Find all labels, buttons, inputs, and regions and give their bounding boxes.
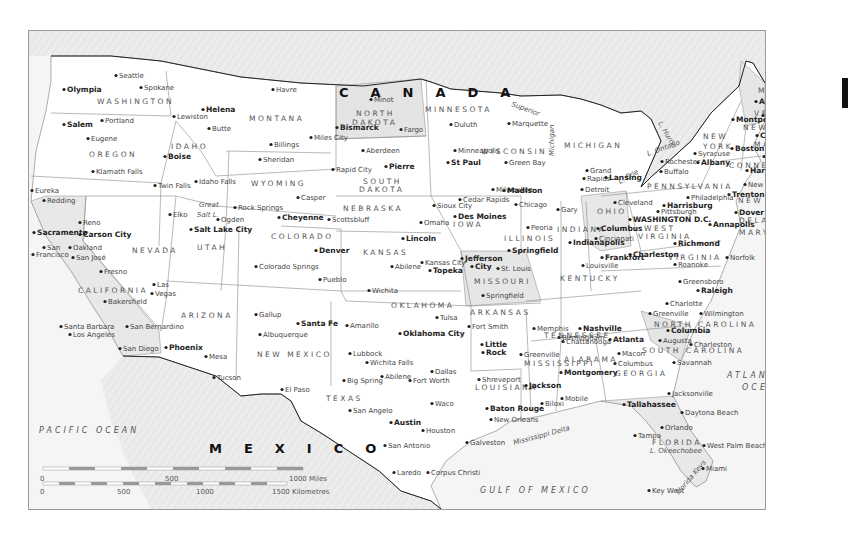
state-label: MARYLAND (739, 228, 765, 237)
city-label: Casper (301, 194, 326, 202)
capital-label: Des Moines (458, 212, 507, 221)
capital-dot-icon (622, 403, 625, 406)
city-label: Springfield (486, 292, 524, 300)
city-dot-icon (496, 267, 499, 270)
city-dot-icon (699, 312, 702, 315)
city-dot-icon (369, 98, 372, 101)
city-dot-icon (68, 333, 71, 336)
city-label: Klamath Falls (96, 168, 143, 176)
capital-label: Nashville (583, 324, 622, 333)
city-label: Gary (561, 206, 578, 214)
capital-label: Atlanta (613, 335, 644, 344)
capital-label: Rock (486, 348, 507, 357)
city-dot-icon (342, 379, 345, 382)
city-dot-icon (150, 292, 153, 295)
city-dot-icon (204, 355, 207, 358)
capital-dot-icon (384, 165, 387, 168)
city-label: Omaha (424, 219, 449, 227)
city-label: Rock Springs (238, 204, 284, 212)
city-dot-icon (532, 327, 535, 330)
city-dot-icon (271, 88, 274, 91)
city-dot-icon (296, 196, 299, 199)
state-label: MINNESOTA (425, 105, 492, 114)
capital-dot-icon (62, 88, 65, 91)
city-label: Tampa (637, 432, 661, 440)
city-label: Green Bay (509, 159, 546, 167)
capital-dot-icon (755, 134, 758, 137)
city-label: Fort Smith (472, 323, 508, 331)
city-dot-icon (216, 218, 219, 221)
capital-dot-icon (189, 228, 192, 231)
city-dot-icon (71, 256, 74, 259)
capital-dot-icon (559, 371, 562, 374)
capital-label: Columbia (671, 326, 710, 335)
city-label: Rapids (587, 175, 611, 183)
city-dot-icon (309, 136, 312, 139)
city-label: New Orleans (494, 416, 539, 424)
capital-label: Trenton (732, 190, 765, 199)
city-label: Fargo (404, 126, 423, 134)
capital-dot-icon (628, 253, 631, 256)
city-label: Minneapolis (458, 147, 500, 155)
city-label: Key West (652, 487, 684, 495)
capital-dot-icon (401, 237, 404, 240)
city-dot-icon (59, 325, 62, 328)
city-label: Duluth (454, 121, 477, 129)
capital-dot-icon (596, 227, 599, 230)
city-label: Waco (435, 400, 454, 408)
state-label: KENTUCKY (560, 274, 620, 283)
city-label: Wichita (372, 287, 398, 295)
city-label: Houston (426, 427, 455, 435)
city-label: Aberdeen (366, 147, 400, 155)
city-label: Elko (173, 211, 187, 219)
water-label: GULF OF MEXICO (480, 486, 591, 495)
city-dot-icon (660, 426, 663, 429)
city-dot-icon (556, 208, 559, 211)
state-label: NEBRASKA (343, 204, 403, 213)
city-dot-icon (430, 370, 433, 373)
city-label: Gallup (259, 311, 282, 319)
capital-label: Boston (735, 144, 764, 153)
city-dot-icon (212, 376, 215, 379)
map-frame: CANADAMEXICOPACIFIC OCEANATLANTICOCEANGU… (28, 30, 766, 510)
city-label: San Antonio (388, 442, 430, 450)
state-label: UTAH (197, 243, 227, 252)
city-dot-icon (233, 206, 236, 209)
city-dot-icon (103, 300, 106, 303)
city-label: Seattle (119, 72, 144, 80)
capital-dot-icon (485, 407, 488, 410)
city-dot-icon (68, 246, 71, 249)
city-dot-icon (348, 352, 351, 355)
capital-label: Springfield (512, 246, 558, 255)
city-label: Corpus Christi (431, 469, 480, 477)
city-dot-icon (100, 119, 103, 122)
city-label: Colorado Springs (259, 263, 319, 271)
city-label: Billings (274, 141, 299, 149)
capital-label: Raleigh (701, 286, 733, 295)
capital-dot-icon (745, 169, 748, 172)
city-label: Abilene (385, 373, 411, 381)
city-dot-icon (367, 289, 370, 292)
capital-label: Carson City (83, 230, 131, 239)
city-dot-icon (633, 434, 636, 437)
state-label: COLORADO (271, 232, 334, 241)
city-label: El Paso (285, 386, 310, 394)
water-label: PACIFIC OCEAN (39, 426, 139, 435)
city-label: Portland (105, 117, 134, 125)
capital-dot-icon (163, 155, 166, 158)
capital-label: Columbus (601, 224, 643, 233)
capital-dot-icon (453, 215, 456, 218)
city-label: Columbus (618, 360, 653, 368)
capital-label: Charleston (633, 250, 679, 259)
state-label: GEORGIA (615, 369, 667, 378)
capital-dot-icon (481, 351, 484, 354)
city-label: Lewiston (177, 113, 208, 121)
water-label: ATLANTIC (726, 371, 765, 380)
capital-label: Montpelier (736, 115, 765, 124)
city-label: Abilene (395, 263, 421, 271)
city-label: Havre (276, 86, 297, 94)
capital-label: Boise (168, 152, 191, 161)
state-label: ALABAMA (564, 355, 618, 364)
city-label: Eugene (91, 135, 117, 143)
city-dot-icon (686, 196, 689, 199)
